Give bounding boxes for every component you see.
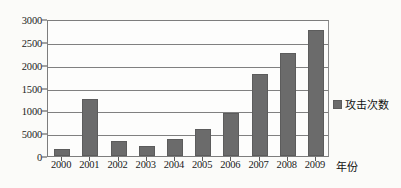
bars-layer [48,21,328,156]
x-tick-mark [89,157,90,161]
x-tick-mark [174,157,175,161]
bar-2000 [54,149,70,156]
y-tick-mark [42,88,47,89]
y-tick-mark [42,42,47,43]
bar-chart: 0500010001500200025003000 20002001200220… [0,0,401,188]
legend: 攻击次数 [333,96,389,112]
legend-swatch-attacks [333,100,342,109]
y-tick-mark [42,20,47,21]
bar-2007 [252,74,268,156]
y-tick-mark [42,134,47,135]
bar-2008 [280,53,296,156]
y-tick-label: 2500 [22,37,42,48]
x-tick-mark [146,157,147,161]
x-tick-mark [259,157,260,161]
x-tick-mark [202,157,203,161]
y-tick-mark [42,111,47,112]
y-tick-label: 2000 [22,60,42,71]
x-axis: 2000200120022003200420052006200720082009 [47,159,329,175]
bar-2005 [195,129,211,156]
bar-2002 [111,141,127,156]
bar-2003 [139,146,155,156]
x-tick-mark [230,157,231,161]
x-axis-title: 年份 [336,158,358,174]
y-axis: 0500010001500200025003000 [0,20,42,157]
y-tick-mark [42,65,47,66]
bar-2006 [223,113,239,156]
x-tick-mark [118,157,119,161]
y-tick-label: 5000 [22,129,42,140]
x-tick-mark [287,157,288,161]
x-tick-mark [61,157,62,161]
bar-2004 [167,139,183,156]
legend-label-attacks: 攻击次数 [345,96,389,112]
y-tick-label: 1500 [22,83,42,94]
y-tick-label: 3000 [22,15,42,26]
x-tick-mark [315,157,316,161]
y-tick-mark [42,157,47,158]
bar-2001 [82,99,98,156]
bar-2009 [308,30,324,156]
plot-area [47,20,329,157]
y-tick-label: 1000 [22,106,42,117]
